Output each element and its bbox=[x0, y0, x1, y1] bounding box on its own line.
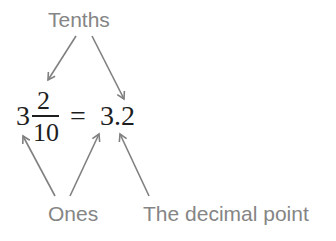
arrow-tenths-to-decimal-digit bbox=[92, 36, 124, 99]
label-ones: Ones bbox=[48, 203, 98, 224]
fraction-bar bbox=[32, 115, 59, 117]
decimal-number: 3.2 bbox=[100, 102, 135, 130]
arrow-decimal-point bbox=[120, 134, 149, 196]
decimal-diagram: Tenths 3 2 10 = 3.2 Ones The decimal poi… bbox=[0, 0, 336, 241]
equals-sign: = bbox=[70, 102, 86, 130]
label-tenths: Tenths bbox=[48, 9, 110, 30]
label-decimal-point: The decimal point bbox=[143, 203, 309, 224]
fraction-numerator: 2 bbox=[37, 88, 50, 114]
whole-number: 3 bbox=[16, 102, 30, 130]
fraction-denominator: 10 bbox=[33, 120, 59, 146]
arrow-tenths-to-numerator bbox=[48, 36, 76, 80]
arrow-ones-to-decimal-ones bbox=[70, 134, 99, 196]
